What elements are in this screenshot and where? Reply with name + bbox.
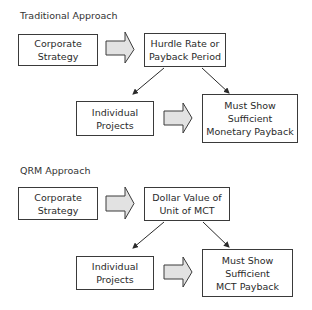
block-arrow-right-icon — [106, 32, 134, 63]
arrow-to-individual-projects-icon — [133, 222, 164, 248]
box-label: Must Show Sufficient MCT Payback — [216, 254, 279, 293]
qrm-individual-projects-box: Individual Projects — [76, 256, 154, 290]
block-arrow-right-icon — [106, 187, 134, 219]
box-label: Individual Projects — [92, 106, 138, 132]
qrm-corporate-strategy-box: Corporate Strategy — [18, 187, 98, 220]
box-label: Dollar Value of Unit of MCT — [152, 191, 221, 217]
traditional-individual-projects-box: Individual Projects — [76, 101, 154, 136]
block-arrow-right-icon — [164, 103, 192, 133]
block-arrow-right-icon — [164, 257, 192, 287]
box-label: Hurdle Rate or Payback Period — [149, 37, 221, 63]
box-label: Individual Projects — [92, 260, 138, 286]
traditional-must-show-payback-box: Must Show Sufficient Monetary Payback — [202, 94, 298, 143]
traditional-hurdle-rate-box: Hurdle Rate or Payback Period — [144, 33, 226, 67]
arrow-to-must-show-icon — [203, 222, 229, 247]
box-label: Corporate Strategy — [34, 191, 82, 217]
arrow-to-must-show-icon — [202, 68, 229, 93]
qrm-dollar-value-mct-box: Dollar Value of Unit of MCT — [144, 187, 230, 221]
traditional-title: Traditional Approach — [20, 10, 118, 21]
qrm-title: QRM Approach — [20, 165, 90, 176]
traditional-corporate-strategy-box: Corporate Strategy — [18, 34, 98, 66]
box-label: Must Show Sufficient Monetary Payback — [206, 99, 293, 138]
qrm-must-show-mct-payback-box: Must Show Sufficient MCT Payback — [202, 249, 293, 297]
box-label: Corporate Strategy — [34, 37, 82, 63]
arrow-to-individual-projects-icon — [133, 68, 164, 94]
